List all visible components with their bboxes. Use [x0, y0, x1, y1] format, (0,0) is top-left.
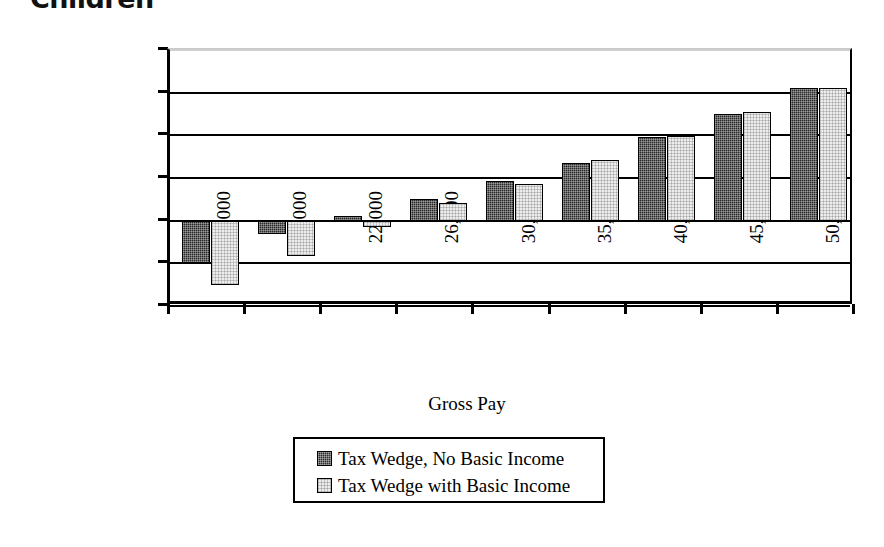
bar — [410, 199, 438, 220]
legend-swatch-light-icon — [317, 478, 332, 493]
x-axis-tick — [243, 304, 246, 314]
bar — [638, 137, 666, 220]
bar — [334, 216, 362, 220]
x-axis-tick — [319, 304, 322, 314]
bar — [287, 221, 315, 257]
gridline — [170, 49, 850, 51]
bar — [667, 136, 695, 221]
bar — [562, 163, 590, 220]
x-axis-tick — [776, 304, 779, 314]
bar — [714, 114, 742, 221]
x-axis-tick — [471, 304, 474, 314]
chart-legend: Tax Wedge, No Basic Income Tax Wedge wit… — [293, 437, 605, 503]
bar — [258, 221, 286, 235]
legend-item[interactable]: Tax Wedge, No Basic Income — [317, 445, 603, 472]
bar — [790, 88, 818, 220]
legend-swatch-dark-icon — [317, 451, 332, 466]
bar — [819, 88, 847, 220]
bar — [363, 221, 391, 227]
bar — [591, 160, 619, 221]
gridline — [170, 92, 850, 94]
legend-label: Tax Wedge with Basic Income — [338, 476, 570, 495]
x-axis-title: Gross Pay — [0, 393, 884, 415]
x-axis-tick — [852, 304, 855, 314]
bar — [182, 221, 210, 264]
x-axis-tick — [167, 304, 170, 314]
legend-item[interactable]: Tax Wedge with Basic Income — [317, 472, 603, 499]
x-axis-tick — [395, 304, 398, 314]
x-axis-tick — [700, 304, 703, 314]
bar — [743, 112, 771, 221]
bar — [515, 184, 543, 221]
x-axis-tick — [548, 304, 551, 314]
x-axis-tick — [624, 304, 627, 314]
bar — [211, 221, 239, 285]
legend-label: Tax Wedge, No Basic Income — [338, 449, 564, 468]
bar — [439, 203, 467, 221]
bar — [486, 181, 514, 221]
chart-title: Children — [30, 0, 154, 14]
x-axis-category-label: 22,000 — [366, 191, 385, 321]
